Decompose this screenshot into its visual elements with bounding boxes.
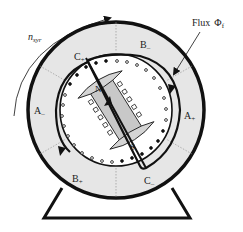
synchronous-machine-diagram: nsyr FluxΦf N S C+ B– A– A+ B+ C– (0, 0, 243, 232)
north-pole-label: N (95, 84, 102, 94)
speed-label: nsyr (28, 31, 42, 44)
flux-label: FluxΦf (192, 17, 225, 30)
south-pole-label: S (130, 142, 135, 152)
